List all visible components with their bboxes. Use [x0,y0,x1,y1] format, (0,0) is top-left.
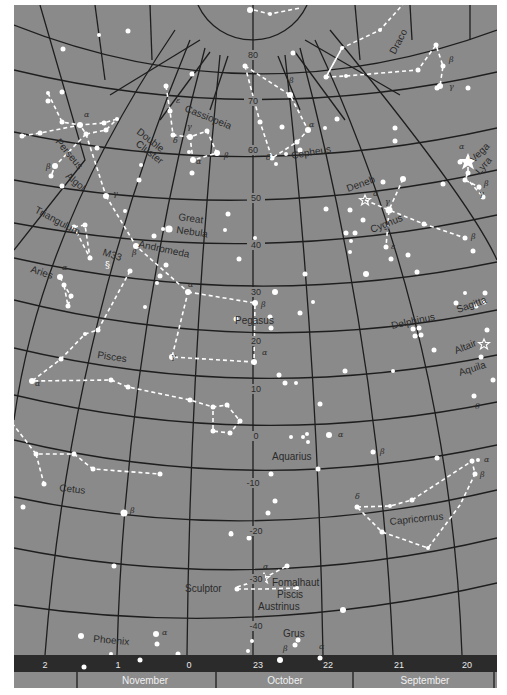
star-designation-g25: γ [171,352,176,361]
star-designation-g29: β [379,447,385,456]
hour-label-h23: 23 [253,660,263,670]
star-designation-g27: α [35,379,41,388]
star-designation-g22: β [131,248,137,257]
star-designation-g14: α [459,142,465,151]
star-designation-g7: α [196,157,202,166]
star-chart: § 80706050403020100-10-20-30-40 DracoCas… [0,0,507,695]
star-designation-g18: γ [385,197,390,206]
declination-label-d0: 0 [253,431,258,441]
star-designation-g28: α [338,430,344,439]
star-designation-g2: β [45,162,51,171]
declination-label-d60: 60 [248,145,258,155]
star-designation-g11: δ [266,153,271,162]
hour-label-h20: 20 [462,660,472,670]
declination-label-d80: 80 [248,50,258,60]
star-designation-g33: θ [475,402,480,411]
hour-label-h2: 2 [42,660,47,670]
star-designation-g38: α [319,642,325,651]
star-designation-g5: γ [187,122,192,131]
declination-label-dm10: -10 [246,478,259,488]
star-designation-g8: β [223,151,229,160]
declination-label-d30: 30 [251,287,261,297]
star-designation-g1: α [84,110,90,119]
star-designation-g21: α [62,263,68,272]
star-designation-g17: α [373,189,379,198]
star-designation-g19: ε [391,242,395,251]
star-designation-g20: β [470,232,476,241]
hour-label-h0: 0 [186,660,191,670]
star-designation-g9: β [288,76,294,85]
star-designation-g36: α [162,628,168,637]
star-designation-g10: α [309,120,315,129]
star-designation-g35: α [263,562,269,571]
month-label-m-oct: October [267,675,303,686]
hour-label-h22: 22 [323,660,333,670]
star-designation-g13: γ [449,82,454,91]
declination-label-d10: 10 [251,384,261,394]
star-designation-g34: β [129,506,135,515]
declination-label-d70: 70 [248,96,258,106]
star-designation-g23: α [188,280,194,289]
star-designation-g4: ε [176,96,180,105]
declination-label-dm30: -30 [249,574,262,584]
declination-label-d20: 20 [251,336,261,346]
star-designation-g32: δ [355,492,360,501]
constellation-label-pegasus: Pegasus [235,315,274,326]
declination-label-d50: 50 [251,193,261,203]
declination-label-dm20: -20 [249,526,262,536]
hour-label-h1: 1 [115,660,120,670]
star-designation-g24: β [260,300,266,309]
star-designation-g16: γ [479,189,484,198]
declination-label-d40: 40 [251,240,261,250]
constellation-label-sculptor: Sculptor [185,583,222,594]
declination-label-dm40: -40 [249,621,262,631]
star-designation-g31: β [479,470,485,479]
constellation-label-austrinus: Austrinus [258,601,300,612]
month-label-m-nov: November [122,675,169,686]
star-designation-g26: α [262,348,268,357]
constellation-label-grus: Grus [283,628,305,639]
star-designation-g6: δ [173,136,178,145]
star-designation-g3: γ [113,189,118,198]
star-designation-g12: β [448,55,454,64]
constellation-label-fomalhaut: Fomalhaut [272,577,319,588]
star-designation-g30: α [484,455,490,464]
hour-label-h21: 21 [394,660,404,670]
month-label-m-sep: September [401,675,451,686]
star-designation-g15: β [483,179,489,188]
constellation-label-piscis: Piscis [277,589,303,600]
m33-galaxy-icon: § [105,259,110,270]
star-designation-g37: β [282,644,288,653]
constellation-label-aquarius: Aquarius [272,451,311,462]
